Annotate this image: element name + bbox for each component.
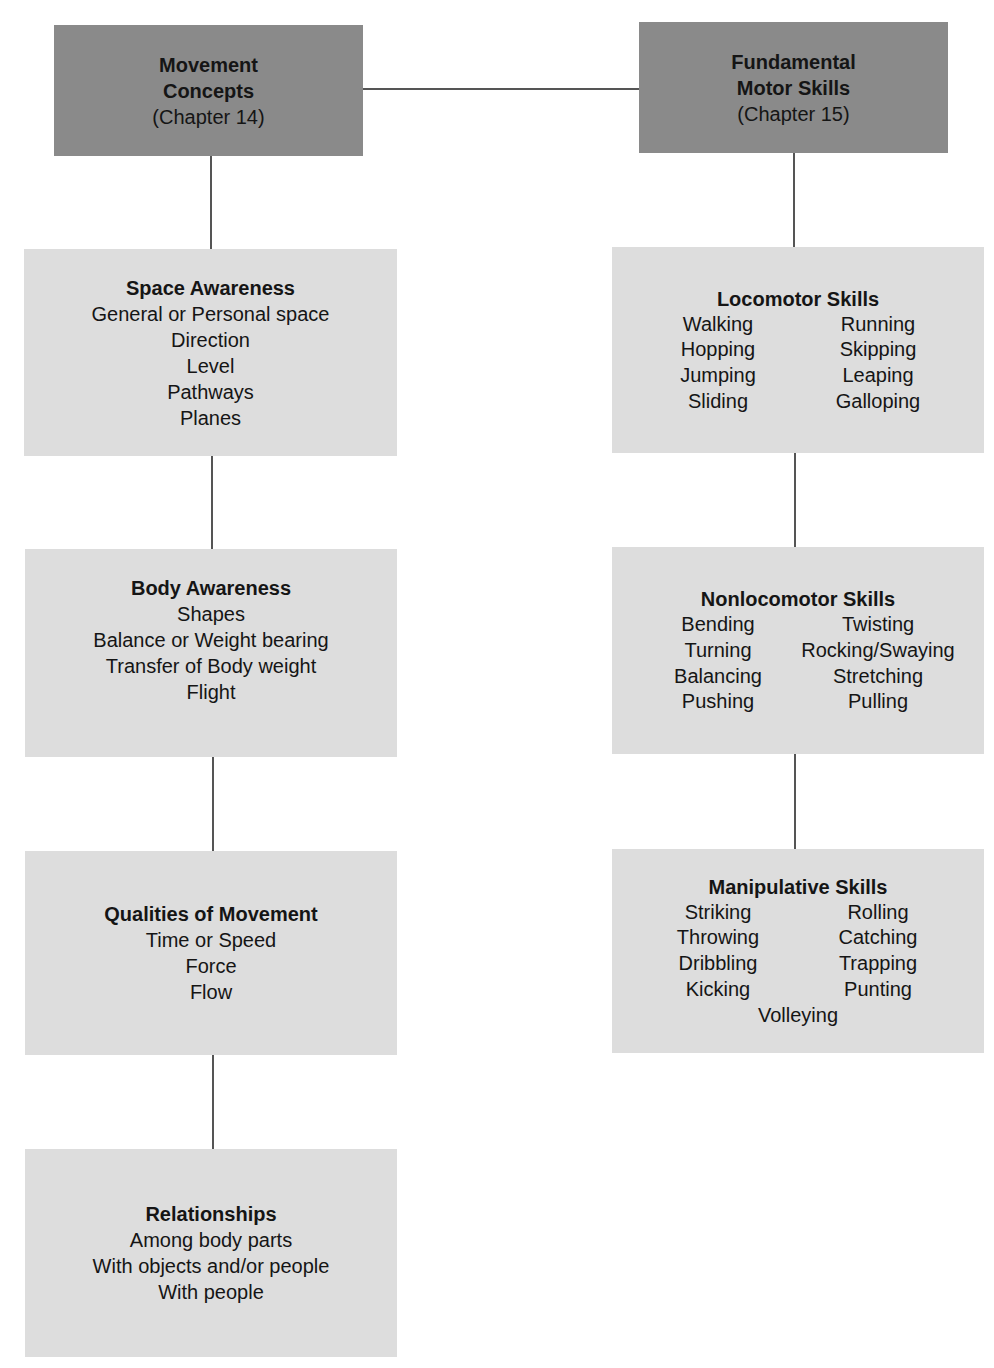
locomotor-skills-box: Locomotor Skills Walking Running Hopping… (612, 247, 984, 453)
movement-concepts-header: Movement Concepts (Chapter 14) (54, 25, 363, 156)
relationships-box: Relationships Among body parts With obje… (25, 1149, 397, 1357)
connector-headers (362, 88, 640, 90)
box-item: Level (187, 353, 235, 379)
box-item: Time or Speed (146, 927, 276, 953)
box-title: Space Awareness (126, 275, 295, 301)
skill-item: Punting (798, 977, 958, 1003)
skill-item: Pushing (638, 689, 798, 715)
skill-item: Stretching (798, 664, 958, 690)
skill-item: Rolling (798, 900, 958, 926)
skill-item: Skipping (798, 337, 958, 363)
skill-item: Twisting (798, 612, 958, 638)
connector-left-1 (210, 155, 212, 250)
skill-item: Trapping (798, 951, 958, 977)
skills-grid: Walking Running Hopping Skipping Jumping… (638, 312, 958, 415)
connector-left-4 (212, 1054, 214, 1150)
header-subtitle: (Chapter 15) (737, 101, 849, 127)
skill-item: Running (798, 312, 958, 338)
box-item: Shapes (177, 601, 245, 627)
skill-item: Pulling (798, 689, 958, 715)
box-title: Relationships (145, 1201, 276, 1227)
header-subtitle: (Chapter 14) (152, 104, 264, 130)
skill-item: Striking (638, 900, 798, 926)
skill-item: Leaping (798, 363, 958, 389)
skills-grid: Striking Rolling Throwing Catching Dribb… (638, 900, 958, 1029)
box-item: With people (158, 1279, 264, 1305)
box-item: Planes (180, 405, 241, 431)
connector-left-2 (211, 455, 213, 550)
skill-item: Volleying (638, 1003, 958, 1029)
connector-right-2 (794, 453, 796, 548)
header-title: Movement (159, 52, 258, 78)
box-item: Flow (190, 979, 232, 1005)
box-item: Pathways (167, 379, 254, 405)
box-title: Qualities of Movement (104, 901, 317, 927)
connector-right-3 (794, 754, 796, 850)
skill-item: Catching (798, 925, 958, 951)
skills-grid: Bending Twisting Turning Rocking/Swaying… (638, 612, 958, 715)
box-title: Manipulative Skills (709, 874, 888, 900)
space-awareness-box: Space Awareness General or Personal spac… (24, 249, 397, 456)
skill-item: Walking (638, 312, 798, 338)
header-title: Fundamental (731, 49, 855, 75)
skill-item: Hopping (638, 337, 798, 363)
skill-item: Sliding (638, 389, 798, 415)
box-title: Locomotor Skills (717, 286, 879, 312)
skill-item: Balancing (638, 664, 798, 690)
box-item: Among body parts (130, 1227, 292, 1253)
box-item: General or Personal space (92, 301, 330, 327)
box-title: Body Awareness (131, 575, 291, 601)
skill-item: Turning (638, 638, 798, 664)
box-item: Balance or Weight bearing (93, 627, 328, 653)
nonlocomotor-skills-box: Nonlocomotor Skills Bending Twisting Tur… (612, 547, 984, 754)
manipulative-skills-box: Manipulative Skills Striking Rolling Thr… (612, 849, 984, 1053)
box-item: Direction (171, 327, 250, 353)
skill-item: Galloping (798, 389, 958, 415)
header-title: Concepts (163, 78, 254, 104)
qualities-of-movement-box: Qualities of Movement Time or Speed Forc… (25, 851, 397, 1055)
skill-item: Throwing (638, 925, 798, 951)
header-title: Motor Skills (737, 75, 850, 101)
connector-right-1 (793, 152, 795, 248)
body-awareness-box: Body Awareness Shapes Balance or Weight … (25, 549, 397, 757)
box-item: Flight (187, 679, 236, 705)
connector-left-3 (212, 756, 214, 852)
box-title: Nonlocomotor Skills (701, 586, 895, 612)
skill-item: Jumping (638, 363, 798, 389)
box-item: Transfer of Body weight (106, 653, 316, 679)
skill-item: Rocking/Swaying (798, 638, 958, 664)
skill-item: Dribbling (638, 951, 798, 977)
skill-item: Bending (638, 612, 798, 638)
box-item: Force (185, 953, 236, 979)
fundamental-motor-skills-header: Fundamental Motor Skills (Chapter 15) (639, 22, 948, 153)
skill-item: Kicking (638, 977, 798, 1003)
box-item: With objects and/or people (93, 1253, 330, 1279)
